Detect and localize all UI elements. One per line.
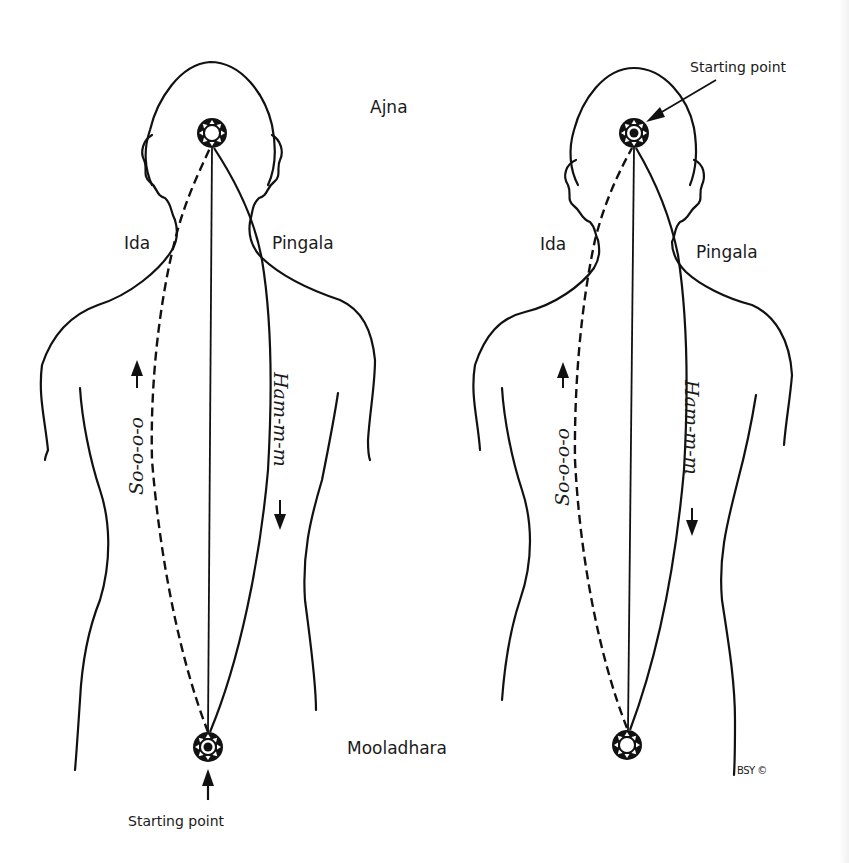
right-torso-outline [304,393,338,710]
ida-path [152,148,210,732]
starting-point-arrow-icon [646,80,716,122]
ascending-mantra-label: So-o-o-o [551,428,573,506]
mooladhara-chakra-icon [612,730,642,760]
left-ear-outline [565,160,598,240]
pingala-path [630,148,686,730]
right-arm-outline [368,440,370,460]
ascending-arrow-icon [131,360,143,388]
credit-label: BSY © [737,765,767,776]
right-ear-outline [672,160,704,242]
ajna-label: Ajna [370,97,408,117]
left-arm-outline [45,450,48,460]
starting-point-arrow-icon [202,769,214,800]
pingala-label: Pingala [272,233,334,253]
left-shoulder-outline [41,220,177,450]
mooladhara-chakra-icon [193,732,223,762]
ida-label: Ida [540,234,566,254]
left-torso-outline [75,388,108,770]
mooladhara-label: Mooladhara [347,738,447,758]
starting-point-label-bottom: Starting point [128,813,225,829]
ajna-chakra-icon [619,118,649,148]
pingala-path [210,148,270,732]
right-torso-outline [721,395,756,775]
ida-path [575,148,632,728]
ascending-arrow-icon [557,362,569,388]
descending-mantra-label: Ham-m-m [681,379,703,475]
descending-mantra-label: Ham-m-m [270,371,292,467]
descending-arrow-icon [686,508,698,536]
ida-label: Ida [124,233,150,253]
left-figure: Ajna Ida Pingala So-o-o-o Ham-m-m Moolad… [41,62,447,829]
pingala-label: Pingala [696,242,758,262]
left-shoulder-outline [473,240,599,450]
ascending-mantra-label: So-o-o-o [125,417,147,495]
sushumna-line [628,148,634,730]
nadi-diagram: Ajna Ida Pingala So-o-o-o Ham-m-m Moolad… [0,0,849,863]
right-ear-outline [250,135,282,222]
left-torso-outline [502,388,530,700]
ajna-chakra-icon [197,118,227,148]
sushumna-line [208,148,212,732]
left-ear-outline [142,135,175,220]
descending-arrow-icon [274,500,286,530]
right-figure: Starting point Ida Pingala So-o-o-o Ham-… [473,59,792,776]
starting-point-label-top: Starting point [690,59,787,75]
